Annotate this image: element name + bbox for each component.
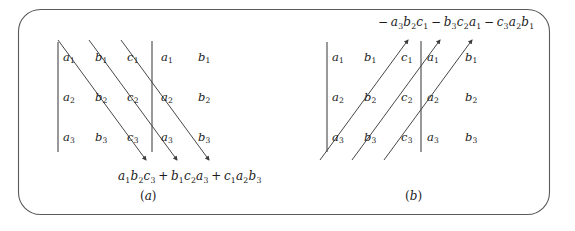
panel-b-cell-r1c2: b1: [364, 52, 376, 64]
panel-b-cell-r3c5: b3: [465, 132, 477, 144]
panel-b-cell-r1c5: b1: [465, 52, 477, 64]
panel-b-cell-r2c2: b2: [364, 92, 376, 104]
panel-b-cell-r2c4: a2: [427, 92, 439, 104]
panel-a-cell-r1c4: a1: [161, 52, 173, 64]
panel-a-caption: (a): [140, 190, 157, 202]
panel-a-cell-r3c1: a3: [63, 132, 75, 144]
panel-b-term-3: c3a2b1: [497, 15, 535, 29]
panel-a-operator-1: +: [156, 169, 171, 183]
diagram-ink-layer: [0, 0, 575, 231]
panel-b-cell-r1c1: a1: [332, 52, 344, 64]
panel-a-cell-r1c5: b1: [198, 52, 210, 64]
panel-b-cell-r2c5: b2: [465, 92, 477, 104]
panel-a-formula: a1b2c3+b1c2a3+c1a2b3: [118, 170, 262, 182]
panel-a-cell-r3c2: b3: [95, 132, 107, 144]
panel-a-cell-r2c5: b2: [198, 92, 210, 104]
panel-a-cell-r2c4: a2: [161, 92, 173, 104]
panel-a-term-1: a1b2c3: [118, 169, 156, 183]
panel-b-cell-r1c4: a1: [427, 52, 439, 64]
panel-b-cell-r3c1: a3: [332, 132, 344, 144]
panel-b-cell-r2c3: c2: [401, 92, 412, 104]
panel-b-cell-r3c2: b3: [364, 132, 376, 144]
panel-a-cell-r1c1: a1: [63, 52, 75, 64]
panel-b-operator-2: −: [481, 15, 496, 29]
panel-a-operator-2: +: [209, 169, 224, 183]
panel-a-cell-r3c4: a3: [161, 132, 173, 144]
panel-b-term-1: a3b2c1: [391, 15, 429, 29]
panel-b-operator-1: −: [428, 15, 443, 29]
panel-a-cell-r2c3: c2: [127, 92, 138, 104]
figure-container: a1 b1 c1 a1 b1 a2 b2 c2 a2 b2 a3 b3 c3 a…: [0, 0, 575, 231]
panel-b-cell-r2c1: a2: [332, 92, 344, 104]
panel-b-term-2: b3c2a1: [444, 15, 482, 29]
panel-b-lead-sign: −: [378, 15, 391, 29]
panel-a-cell-r3c5: b3: [198, 132, 210, 144]
panel-a-cell-r1c3: c1: [127, 52, 138, 64]
panel-a-cell-r2c1: a2: [63, 92, 75, 104]
panel-b-cell-r3c3: c3: [401, 132, 412, 144]
panel-a-term-3: c1a2b3: [224, 169, 262, 183]
panel-a-cell-r3c3: c3: [127, 132, 138, 144]
panel-b-cell-r3c4: a3: [427, 132, 439, 144]
panel-b-formula: −a3b2c1−b3c2a1−c3a2b1: [378, 16, 534, 28]
panel-b-cell-r1c3: c1: [401, 52, 412, 64]
panel-a-cell-r2c2: b2: [95, 92, 107, 104]
panel-b-caption: (b): [405, 190, 422, 202]
panel-a-cell-r1c2: b1: [95, 52, 107, 64]
panel-a-term-2: b1c2a3: [171, 169, 209, 183]
